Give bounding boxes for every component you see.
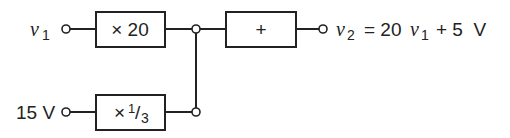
sum-label: + bbox=[255, 19, 266, 40]
output-equation: v 2 = 20 v 1 + 5 V bbox=[336, 18, 486, 43]
svg-text:1: 1 bbox=[42, 27, 50, 43]
input-v1-terminal bbox=[62, 25, 70, 33]
svg-text:v: v bbox=[30, 18, 39, 40]
junction-top bbox=[192, 25, 200, 33]
input-15v-label: 15 V bbox=[16, 102, 55, 123]
block-diagram: v 1 × 20 + v 2 = 20 v 1 + 5 V 15 V × 1 /… bbox=[0, 0, 510, 138]
svg-text:2: 2 bbox=[347, 27, 355, 43]
svg-text:1: 1 bbox=[421, 27, 429, 43]
svg-text:+ 5 V: + 5 V bbox=[436, 19, 486, 40]
junction-bottom bbox=[192, 108, 200, 116]
svg-text:v: v bbox=[336, 18, 345, 40]
svg-text:×: × bbox=[114, 102, 125, 123]
svg-text:v: v bbox=[410, 18, 419, 40]
svg-text:= 20: = 20 bbox=[364, 19, 402, 40]
gain-20-label: × 20 bbox=[111, 19, 149, 40]
input-v1-label: v 1 bbox=[30, 18, 50, 43]
input-15v-terminal bbox=[62, 108, 70, 116]
svg-text:3: 3 bbox=[141, 110, 149, 126]
output-terminal bbox=[319, 25, 327, 33]
